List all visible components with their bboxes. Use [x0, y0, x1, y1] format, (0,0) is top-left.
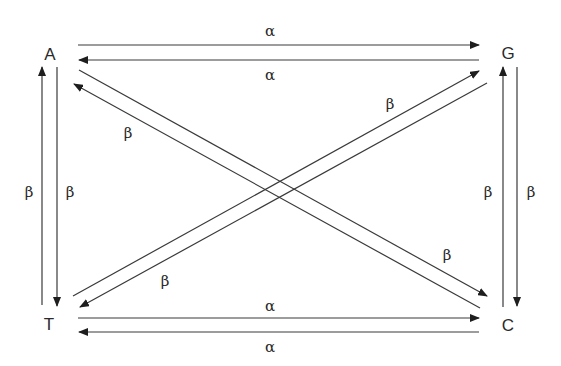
node-G: G	[501, 45, 514, 62]
edge-G-to-T	[80, 83, 487, 307]
rate-label-C-to-G: β	[484, 185, 493, 200]
rate-label-T-to-C: α	[265, 299, 275, 314]
rate-label-C-to-T: α	[265, 340, 275, 355]
rate-label-T-to-A: β	[25, 185, 34, 200]
diagram-canvas	[0, 0, 561, 366]
edge-C-to-A	[74, 84, 480, 308]
edge-A-to-C	[79, 70, 487, 296]
node-T: T	[44, 316, 54, 333]
substitution-diagram: A G T C α α α α β β β β β β β β	[0, 0, 561, 366]
rate-label-T-to-G: β	[386, 97, 395, 112]
rate-label-A-to-G: α	[265, 24, 275, 39]
rate-label-G-to-A: α	[265, 68, 275, 83]
rate-label-G-to-T: β	[161, 274, 170, 289]
rate-label-A-to-C: β	[443, 248, 452, 263]
node-A: A	[44, 46, 55, 63]
rate-label-C-to-A: β	[124, 126, 133, 141]
node-C: C	[502, 317, 514, 334]
rate-label-A-to-T: β	[66, 185, 75, 200]
edge-T-to-G	[73, 71, 479, 296]
rate-label-G-to-C: β	[527, 185, 536, 200]
